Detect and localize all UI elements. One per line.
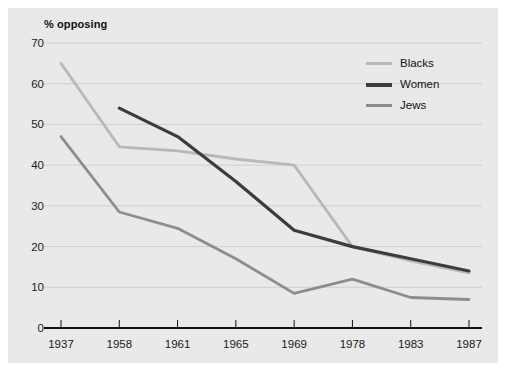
x-tick-label: 1969 [281, 338, 307, 350]
legend-swatch-icon [366, 83, 392, 87]
x-tick-label: 1958 [106, 338, 132, 350]
x-tick-label: 1978 [340, 338, 366, 350]
x-tick-label: 1937 [48, 338, 74, 350]
chart-legend: BlacksWomenJews [366, 57, 439, 112]
legend-item-women[interactable]: Women [366, 78, 439, 91]
x-tick-label: 1983 [398, 338, 424, 350]
legend-label: Jews [400, 99, 426, 112]
x-tick-label: 1987 [456, 338, 482, 350]
legend-item-blacks[interactable]: Blacks [366, 57, 439, 70]
chart-container: % opposing 010203040506070 1937195819611… [8, 8, 498, 363]
legend-label: Women [400, 78, 439, 91]
x-tick-label: 1961 [165, 338, 191, 350]
legend-label: Blacks [400, 57, 434, 70]
legend-swatch-icon [366, 104, 392, 107]
x-tick-label: 1965 [223, 338, 249, 350]
legend-item-jews[interactable]: Jews [366, 99, 439, 112]
legend-swatch-icon [366, 62, 392, 65]
